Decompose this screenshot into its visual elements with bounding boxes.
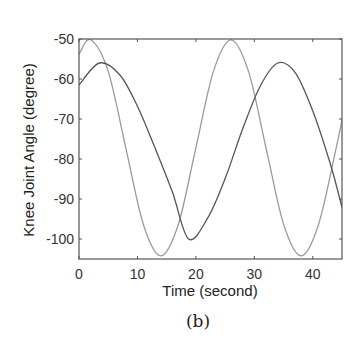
- x-tick-label: 0: [75, 266, 83, 282]
- knee-angle-chart: 010203040 -50-60-70-80-90-100 Time (seco…: [0, 0, 359, 354]
- axis-ticks: [79, 39, 342, 259]
- y-tick-label: -70: [54, 111, 74, 127]
- x-tick-label: 20: [188, 266, 204, 282]
- x-tick-label: 30: [247, 266, 263, 282]
- y-tick-label: -90: [54, 191, 74, 207]
- series-dark-curve: [79, 62, 342, 239]
- y-tick-label: -60: [54, 71, 74, 87]
- y-tick-label: -50: [54, 31, 74, 47]
- y-axis-label: Knee Joint Angle (degree): [20, 63, 37, 236]
- y-tick-label: -100: [46, 231, 74, 247]
- plot-lines: [79, 39, 342, 255]
- x-tick-labels: 010203040: [75, 266, 321, 282]
- figure-caption: (b): [186, 311, 210, 331]
- x-tick-label: 40: [305, 266, 321, 282]
- series-light-curve: [79, 39, 342, 255]
- x-tick-label: 10: [130, 266, 146, 282]
- y-tick-labels: -50-60-70-80-90-100: [46, 31, 74, 247]
- x-axis-label: Time (second): [162, 282, 257, 299]
- y-tick-label: -80: [54, 151, 74, 167]
- plot-frame: [79, 39, 342, 259]
